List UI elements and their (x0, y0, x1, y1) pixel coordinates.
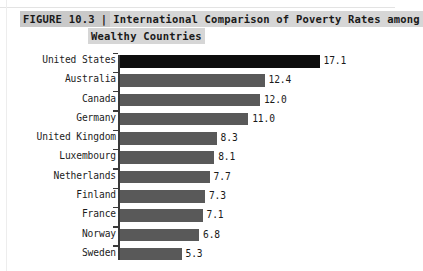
bar-value-label: 6.8 (203, 229, 220, 242)
bar-row: Norway6.8 (0, 226, 395, 245)
bar-value-label: 7.7 (214, 171, 231, 184)
figure-title-line-1: FIGURE 10.3|International Comparison of … (20, 11, 380, 26)
bar-wrapper: 12.4 (120, 74, 292, 87)
bar (120, 55, 320, 68)
bar-rows: United States17.1Australia12.4Canada12.0… (0, 52, 395, 264)
bar-wrapper: 8.1 (120, 151, 236, 164)
bar (120, 190, 205, 203)
bar-wrapper: 11.0 (120, 113, 275, 126)
bar-row-label: Australia (65, 73, 116, 84)
bar-value-label: 7.1 (207, 209, 224, 222)
figure-title-text-line-1: International Comparison of Poverty Rate… (110, 11, 423, 27)
bar-row-label: Canada (82, 93, 116, 104)
bar (120, 151, 215, 164)
figure-title-separator: | (98, 11, 111, 27)
figure-title-block: FIGURE 10.3|International Comparison of … (20, 11, 380, 43)
bar-wrapper: 5.3 (120, 248, 203, 261)
bar (120, 229, 200, 242)
axis-tick (113, 110, 118, 111)
bar-row-label: France (82, 208, 116, 219)
bar-row: Sweden5.3 (0, 245, 395, 264)
bar-row-label: Germany (76, 112, 116, 123)
bar-row-label: United States (42, 54, 116, 65)
bar-wrapper: 12.0 (120, 94, 287, 107)
axis-tick (113, 226, 118, 227)
bar-value-label: 17.1 (324, 55, 347, 68)
bar-row-label: Norway (82, 228, 116, 239)
bar (120, 132, 217, 145)
bar-value-label: 8.1 (218, 151, 235, 164)
bar (120, 74, 265, 87)
bar-row: Luxembourg8.1 (0, 148, 395, 167)
bar-row: Canada12.0 (0, 91, 395, 110)
axis-tick (113, 130, 118, 131)
bar-wrapper: 7.7 (120, 171, 231, 184)
axis-tick (113, 53, 118, 54)
bar-row-label: Netherlands (54, 170, 116, 181)
bar-value-label: 5.3 (186, 248, 203, 261)
bar-wrapper: 17.1 (120, 55, 347, 68)
axis-tick (113, 72, 118, 73)
bar-row: France7.1 (0, 206, 395, 225)
bar-value-label: 11.0 (252, 113, 275, 126)
bar-row-label: Luxembourg (59, 150, 116, 161)
bar-row: United States17.1 (0, 52, 395, 71)
figure-title-line-2: Wealthy Countries (88, 28, 380, 43)
axis-tick (113, 188, 118, 189)
bar-row: Finland7.3 (0, 187, 395, 206)
bar (120, 171, 210, 184)
bar-value-label: 7.3 (209, 190, 226, 203)
bar (120, 113, 249, 126)
bar-row-label: Finland (76, 189, 116, 200)
bar (120, 209, 203, 222)
axis-tick (113, 245, 118, 246)
bar-row: Germany11.0 (0, 110, 395, 129)
bar-row-label: United Kingdom (37, 131, 116, 142)
bar-wrapper: 7.3 (120, 190, 226, 203)
bar (120, 94, 260, 107)
figure-number-label: FIGURE 10.3 (20, 11, 98, 27)
bar-row: Netherlands7.7 (0, 168, 395, 187)
bar-wrapper: 8.3 (120, 132, 238, 145)
bar (120, 248, 182, 261)
axis-tick (113, 149, 118, 150)
bar-value-label: 12.0 (264, 94, 287, 107)
axis-tick (113, 91, 118, 92)
bar-wrapper: 6.8 (120, 229, 221, 242)
axis-tick (113, 207, 118, 208)
figure-title-text-line-2: Wealthy Countries (88, 28, 205, 44)
bar-value-label: 8.3 (221, 132, 238, 145)
top-rule (0, 7, 395, 8)
bar-row-label: Sweden (82, 247, 116, 258)
bar-chart-plot: United States17.1Australia12.4Canada12.0… (0, 52, 395, 264)
bar-value-label: 12.4 (269, 74, 292, 87)
bar-row: Australia12.4 (0, 71, 395, 90)
bar-wrapper: 7.1 (120, 209, 224, 222)
axis-tick (113, 168, 118, 169)
bar-row: United Kingdom8.3 (0, 129, 395, 148)
